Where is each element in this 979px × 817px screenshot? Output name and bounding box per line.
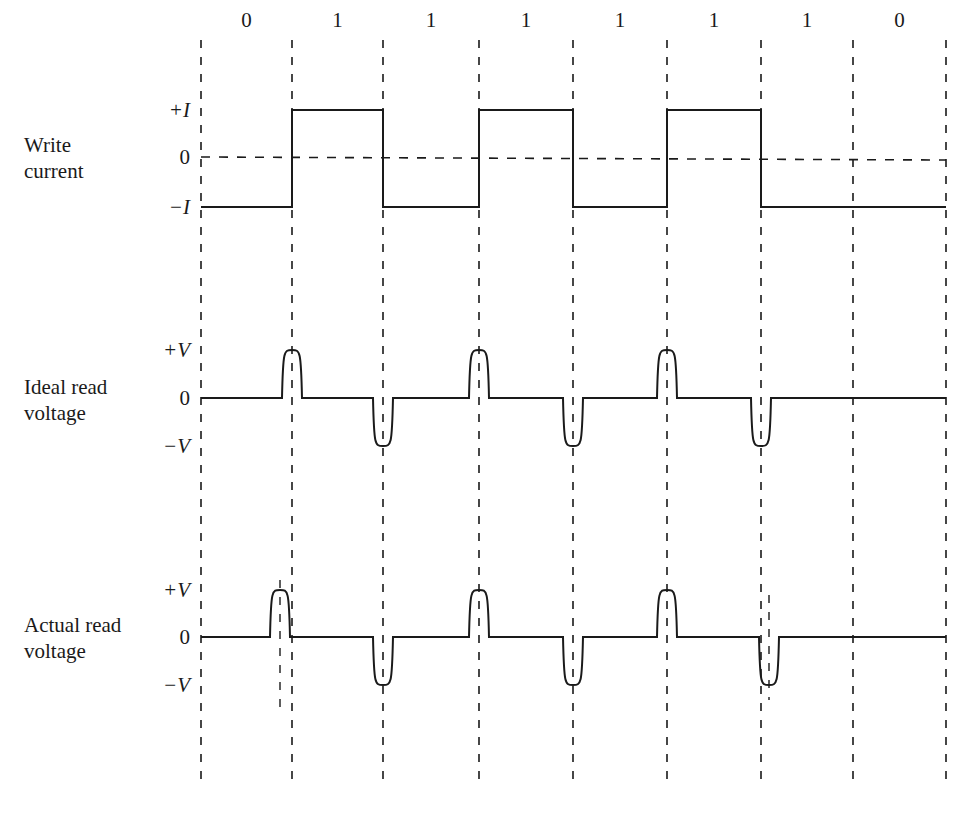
- level-neg-actual: −V: [150, 673, 190, 698]
- bit-label: 1: [605, 8, 635, 33]
- write-current-label: Write current: [24, 132, 83, 184]
- level-zero-ideal: 0: [150, 386, 190, 411]
- level-pos-ideal: +V: [150, 338, 190, 363]
- level-text: 0: [180, 386, 191, 410]
- ideal-read-voltage-label: Ideal read voltage: [24, 374, 107, 426]
- level-neg-ideal: −V: [150, 434, 190, 459]
- level-text: +V: [163, 338, 190, 362]
- signal-name-line1: Actual read: [24, 612, 121, 638]
- bit-label: 1: [511, 8, 541, 33]
- level-text: +I: [169, 98, 190, 122]
- bit-label: 1: [792, 8, 822, 33]
- signal-name-line1: Write: [24, 132, 83, 158]
- bit-label: 1: [323, 8, 353, 33]
- level-text: −V: [163, 434, 190, 458]
- level-zero-write: 0: [150, 145, 190, 170]
- bit-label: 1: [699, 8, 729, 33]
- level-zero-actual: 0: [150, 625, 190, 650]
- actual-read-voltage-label: Actual read voltage: [24, 612, 121, 664]
- bit-label: 1: [416, 8, 446, 33]
- bit-label: 0: [232, 8, 262, 33]
- signal-name-line2: current: [24, 158, 83, 184]
- bit-label: 0: [885, 8, 915, 33]
- signal-name-line1: Ideal read: [24, 374, 107, 400]
- level-text: +V: [163, 578, 190, 602]
- level-pos-write: +I: [150, 98, 190, 123]
- level-text: −V: [163, 673, 190, 697]
- level-text: 0: [180, 625, 191, 649]
- signal-name-line2: voltage: [24, 638, 121, 664]
- level-neg-write: −I: [150, 195, 190, 220]
- signal-name-line2: voltage: [24, 400, 107, 426]
- write-current-waveform: [201, 110, 946, 207]
- level-pos-actual: +V: [150, 578, 190, 603]
- timing-diagram: [0, 0, 979, 817]
- level-text: −I: [169, 195, 190, 219]
- level-text: 0: [180, 145, 191, 169]
